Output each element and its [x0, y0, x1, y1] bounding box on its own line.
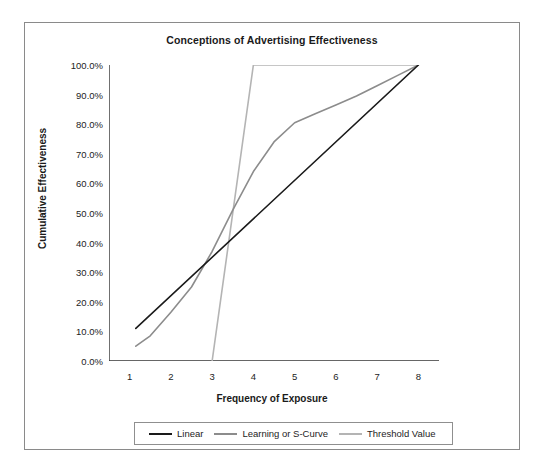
- x-tick-label: 7: [362, 371, 392, 382]
- y-tick-label: 70.0%: [47, 148, 103, 159]
- legend-entry: Linear: [149, 428, 206, 439]
- x-tick-label: 8: [403, 371, 433, 382]
- chart-frame: Conceptions of Advertising Effectiveness…: [24, 22, 520, 450]
- y-tick-label: 50.0%: [47, 208, 103, 219]
- y-tick-label: 20.0%: [47, 296, 103, 307]
- chart-title: Conceptions of Advertising Effectiveness: [25, 34, 519, 46]
- y-tick-label: 80.0%: [47, 119, 103, 130]
- series-line-threshold-value: [212, 65, 418, 361]
- legend-entry: Learning or S-Curve: [214, 428, 331, 439]
- y-tick-label: 0.0%: [47, 356, 103, 367]
- y-axis-tick-labels: 0.0%10.0%20.0%30.0%40.0%50.0%60.0%70.0%8…: [45, 65, 103, 361]
- legend-entry: Threshold Value: [339, 428, 438, 439]
- plot-area: [109, 65, 439, 361]
- x-tick-label: 5: [280, 371, 310, 382]
- y-tick-label: 40.0%: [47, 237, 103, 248]
- series-line-learning-or-s-curve: [136, 65, 419, 346]
- x-tick-label: 4: [238, 371, 268, 382]
- legend-label: Threshold Value: [367, 428, 438, 439]
- y-tick-label: 30.0%: [47, 267, 103, 278]
- x-tick-label: 2: [156, 371, 186, 382]
- legend-swatch-line-icon: [149, 433, 172, 435]
- series-line-linear: [136, 65, 419, 328]
- legend-label: Learning or S-Curve: [242, 428, 331, 439]
- y-tick-label: 10.0%: [47, 326, 103, 337]
- x-tick-label: 1: [115, 371, 145, 382]
- x-tick-label: 6: [321, 371, 351, 382]
- chart-plot-svg: [109, 65, 439, 361]
- y-tick-label: 60.0%: [47, 178, 103, 189]
- y-tick-label: 100.0%: [47, 60, 103, 71]
- legend-swatch-line-icon: [214, 433, 237, 435]
- y-tick-label: 90.0%: [47, 89, 103, 100]
- legend-label: Linear: [177, 428, 206, 439]
- x-axis-tick-labels: 12345678: [109, 371, 439, 387]
- x-axis-title: Frequency of Exposure: [25, 393, 519, 404]
- chart-legend: LinearLearning or S-CurveThreshold Value: [134, 422, 453, 445]
- legend-swatch-line-icon: [339, 433, 362, 435]
- x-tick-label: 3: [197, 371, 227, 382]
